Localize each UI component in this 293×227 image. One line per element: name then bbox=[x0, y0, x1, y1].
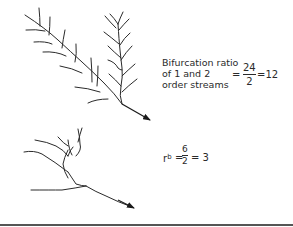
stream-network-drawing bbox=[0, 0, 293, 227]
label-line-2: of 1 and 2 bbox=[162, 68, 238, 79]
lower-equation-fraction: 6 2 bbox=[182, 145, 188, 166]
upper-equation-result: =12 bbox=[257, 69, 278, 80]
upper-left-tributary bbox=[25, 8, 122, 104]
label-line-1: Bifurcation ratio bbox=[162, 57, 238, 68]
fraction-bar bbox=[243, 74, 256, 75]
ratio-superscript: b bbox=[167, 153, 171, 161]
lower-network bbox=[24, 128, 132, 207]
upper-equation-prefix: = bbox=[232, 69, 240, 80]
upper-outlet-arrow bbox=[122, 104, 150, 120]
bottom-rule bbox=[0, 224, 293, 226]
upper-denominator: 2 bbox=[246, 76, 252, 87]
upper-equation-fraction: 24 2 bbox=[243, 62, 256, 87]
bifurcation-ratio-label: Bifurcation ratio of 1 and 2 order strea… bbox=[162, 57, 238, 90]
lower-outlet-arrow bbox=[118, 200, 134, 208]
lower-numerator: 6 bbox=[182, 145, 188, 154]
upper-right-tributary bbox=[104, 12, 137, 104]
label-line-3: order streams bbox=[162, 79, 238, 90]
lower-equation-symbol: rb bbox=[163, 152, 172, 164]
upper-numerator: 24 bbox=[243, 62, 256, 73]
lower-equation-result: = 3 bbox=[191, 152, 209, 163]
lower-denominator: 2 bbox=[182, 157, 188, 166]
